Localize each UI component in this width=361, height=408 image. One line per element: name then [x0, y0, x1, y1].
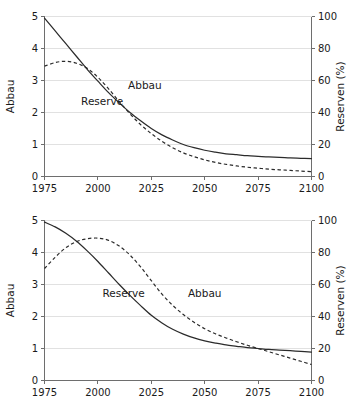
right-tick-label-20: 20	[318, 139, 331, 150]
x-tick-label-1975: 1975	[32, 183, 57, 194]
left-tick-label-0: 0	[32, 375, 38, 386]
x-tick-label-2050: 2050	[192, 387, 217, 398]
series-annotations-top: ReserveAbbau	[81, 79, 162, 106]
left-tick-label-4: 4	[32, 247, 38, 258]
series-annotation-reserve: Reserve	[102, 287, 144, 299]
axis-titles-top: AbbauReserven (%)	[4, 61, 346, 131]
ticks-bottom	[41, 221, 315, 385]
x-tick-label-2000: 2000	[85, 387, 110, 398]
left-tick-label-1: 1	[32, 139, 38, 150]
x-tick-label-2075: 2075	[245, 183, 270, 194]
y-axis-title: Abbau	[4, 80, 16, 114]
axis-titles-bottom: AbbauReserven (%)	[4, 265, 346, 335]
chart-panel-top: 0123450204060801001975200020252050207521…	[0, 0, 361, 204]
series-annotation-reserve: Reserve	[81, 95, 123, 107]
right-tick-label-0: 0	[318, 375, 324, 386]
axes-bottom	[45, 221, 312, 381]
y2-axis-title: Reserven (%)	[334, 61, 346, 131]
series-line-abbau	[45, 238, 312, 364]
series-line-reserve	[45, 222, 312, 352]
right-tick-label-0: 0	[318, 171, 324, 182]
two-panel-line-chart-figure: 0123450204060801001975200020252050207521…	[0, 0, 361, 408]
x-tick-label-2075: 2075	[245, 387, 270, 398]
left-tick-label-2: 2	[32, 311, 38, 322]
right-tick-label-100: 100	[318, 215, 337, 226]
chart-svg-top: 0123450204060801001975200020252050207521…	[0, 0, 361, 204]
left-tick-label-0: 0	[32, 171, 38, 182]
right-tick-label-100: 100	[318, 11, 337, 22]
x-tick-label-2100: 2100	[299, 183, 324, 194]
right-tick-label-80: 80	[318, 247, 331, 258]
right-tick-label-20: 20	[318, 343, 331, 354]
left-tick-label-2: 2	[32, 107, 38, 118]
series-annotations-bottom: ReserveAbbau	[102, 287, 221, 299]
y2-axis-title: Reserven (%)	[334, 265, 346, 335]
tick-labels-top: 0123450204060801001975200020252050207521…	[32, 11, 337, 193]
x-tick-label-2025: 2025	[139, 387, 164, 398]
left-tick-label-3: 3	[32, 279, 38, 290]
left-tick-label-5: 5	[32, 11, 38, 22]
left-tick-label-4: 4	[32, 43, 38, 54]
right-tick-label-40: 40	[318, 107, 331, 118]
right-tick-label-60: 60	[318, 279, 331, 290]
series-annotation-abbau: Abbau	[128, 79, 162, 91]
right-tick-label-60: 60	[318, 75, 331, 86]
x-tick-label-2000: 2000	[85, 183, 110, 194]
chart-panel-bottom: 0123450204060801001975200020252050207521…	[0, 204, 361, 408]
chart-svg-bottom: 0123450204060801001975200020252050207521…	[0, 204, 361, 408]
right-tick-label-40: 40	[318, 311, 331, 322]
series-lines-bottom	[45, 222, 312, 364]
series-annotation-abbau: Abbau	[188, 287, 222, 299]
left-tick-label-5: 5	[32, 215, 38, 226]
left-tick-label-3: 3	[32, 75, 38, 86]
gridlines-bottom	[45, 221, 312, 381]
series-line-reserve	[45, 18, 312, 158]
right-tick-label-80: 80	[318, 43, 331, 54]
x-tick-label-2025: 2025	[139, 183, 164, 194]
x-tick-label-2050: 2050	[192, 183, 217, 194]
y-axis-title: Abbau	[4, 284, 16, 318]
x-tick-label-1975: 1975	[32, 387, 57, 398]
left-tick-label-1: 1	[32, 343, 38, 354]
x-tick-label-2100: 2100	[299, 387, 324, 398]
series-line-abbau	[45, 61, 312, 171]
